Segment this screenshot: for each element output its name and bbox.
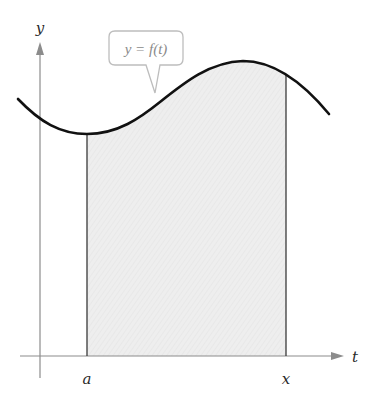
y-axis-label: y — [35, 19, 45, 37]
lower-bound-label: a — [83, 370, 92, 388]
shaded-area-region — [87, 61, 286, 356]
x-axis-arrow-icon — [331, 352, 344, 360]
upper-bound-label: x — [282, 370, 291, 388]
area-under-curve-diagram: y = f(t) y t a x — [0, 0, 370, 401]
y-axis-arrow-icon — [36, 42, 44, 55]
x-axis-label: t — [352, 348, 359, 366]
function-label: y = f(t) — [123, 41, 168, 58]
